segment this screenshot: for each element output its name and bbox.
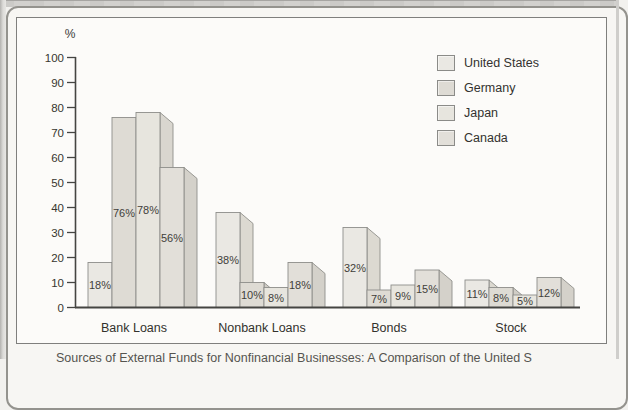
- legend-label: Canada: [464, 131, 508, 145]
- figure-caption-clipped: Sources of External Funds for Nonfinanci…: [56, 351, 616, 365]
- y-tick-label: 20: [51, 252, 64, 264]
- legend-item: Canada: [437, 125, 539, 150]
- legend-label: Japan: [464, 106, 498, 120]
- bar-value-label: 8%: [493, 292, 509, 304]
- bar-value-label: 18%: [289, 279, 311, 291]
- bar-value-label: 78%: [137, 204, 159, 216]
- bar-value-label: 9%: [395, 290, 411, 302]
- legend: United StatesGermanyJapanCanada: [437, 50, 539, 150]
- y-tick-label: 70: [51, 127, 64, 139]
- bar-value-label: 56%: [161, 232, 183, 244]
- category-label: Nonbank Loans: [218, 321, 306, 335]
- category-label: Bank Loans: [101, 321, 167, 335]
- bar-value-label: 10%: [241, 289, 263, 301]
- legend-label: Germany: [464, 81, 515, 95]
- y-tick-label: 90: [51, 77, 64, 89]
- bar-value-label: 7%: [371, 293, 387, 305]
- bar-value-label: 18%: [89, 279, 111, 291]
- bar-value-label: 5%: [517, 295, 533, 307]
- scan-artifact-right-edge: [616, 0, 619, 359]
- bar-value-label: 32%: [344, 262, 366, 274]
- bar-side-face: [184, 168, 197, 308]
- legend-swatch-icon: [437, 80, 455, 96]
- legend-item: Germany: [437, 75, 539, 100]
- bar-value-label: 76%: [113, 207, 135, 219]
- legend-label: United States: [464, 56, 539, 70]
- y-tick-label: 100: [45, 52, 64, 64]
- legend-swatch-icon: [437, 55, 455, 71]
- legend-item: United States: [437, 50, 539, 75]
- y-tick-label: 50: [51, 177, 64, 189]
- bar-value-label: 12%: [538, 287, 560, 299]
- y-tick-label: 30: [51, 227, 64, 239]
- category-label: Stock: [495, 321, 527, 335]
- y-tick-label: 40: [51, 202, 64, 214]
- y-tick-label: 80: [51, 102, 64, 114]
- bar-side-face: [439, 270, 452, 308]
- bar-side-face: [312, 263, 325, 308]
- bar-value-label: 38%: [217, 254, 239, 266]
- bar-value-label: 11%: [466, 288, 487, 300]
- y-tick-label: 10: [51, 277, 64, 289]
- category-label: Bonds: [371, 321, 406, 335]
- bar-side-face: [561, 278, 574, 308]
- bar-value-label: 15%: [416, 283, 438, 295]
- legend-swatch-icon: [437, 130, 455, 146]
- bar-value-label: 8%: [268, 292, 284, 304]
- y-tick-label: 60: [51, 152, 64, 164]
- y-tick-label: 0: [58, 302, 64, 314]
- legend-swatch-icon: [437, 105, 455, 121]
- legend-item: Japan: [437, 100, 539, 125]
- y-axis-unit-label: %: [58, 27, 82, 41]
